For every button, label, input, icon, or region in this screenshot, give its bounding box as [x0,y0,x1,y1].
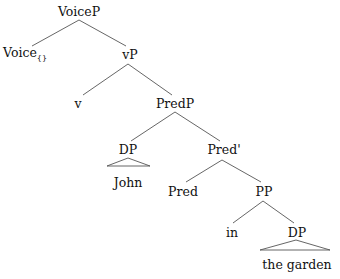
edge-predp-predbar [175,112,220,141]
node-label: PredP [156,96,194,111]
node-vp: vP [122,49,137,62]
node-label: DP [119,142,137,157]
node-john: John [114,177,143,190]
node-v: v [74,98,81,111]
edge-predbar-pp [222,160,261,182]
edge-voicep-vp [79,20,126,46]
triangle-dp1 [107,158,150,166]
node-voicep: VoiceP [58,6,100,19]
node-label: the garden [262,257,331,272]
node-label: VoiceP [58,4,100,19]
node-label: Voice [3,45,37,60]
node-the-garden: the garden [262,259,331,272]
node-voice: Voice{} [3,47,47,63]
node-dp-subject: DP [119,144,137,157]
node-subscript: {} [37,54,47,63]
node-pp: PP [256,186,273,199]
edge-vp-v [83,64,128,95]
node-predp: PredP [156,98,194,111]
edge-pp-in [233,201,263,223]
node-dp-object: DP [288,227,306,240]
node-label: DP [288,225,306,240]
edge-voicep-voice [32,20,79,46]
node-pred: Pred [168,186,198,199]
node-label: in [226,225,238,240]
edge-pp-dp2 [263,201,294,223]
node-pred-bar: Pred' [207,144,240,157]
edge-predbar-pred [186,160,222,182]
node-label: v [74,96,81,111]
node-label: vP [122,47,137,62]
node-label: Pred' [207,142,240,157]
syntax-tree-diagram: VoiceP Voice{} vP v PredP DP John Pred' … [0,0,340,279]
triangle-dp2 [260,240,330,250]
node-label: Pred [168,184,198,199]
edge-predp-dp1 [131,112,175,141]
node-in: in [226,227,238,240]
node-label: PP [256,184,273,199]
node-label: John [114,175,143,190]
edge-vp-predp [128,64,172,95]
